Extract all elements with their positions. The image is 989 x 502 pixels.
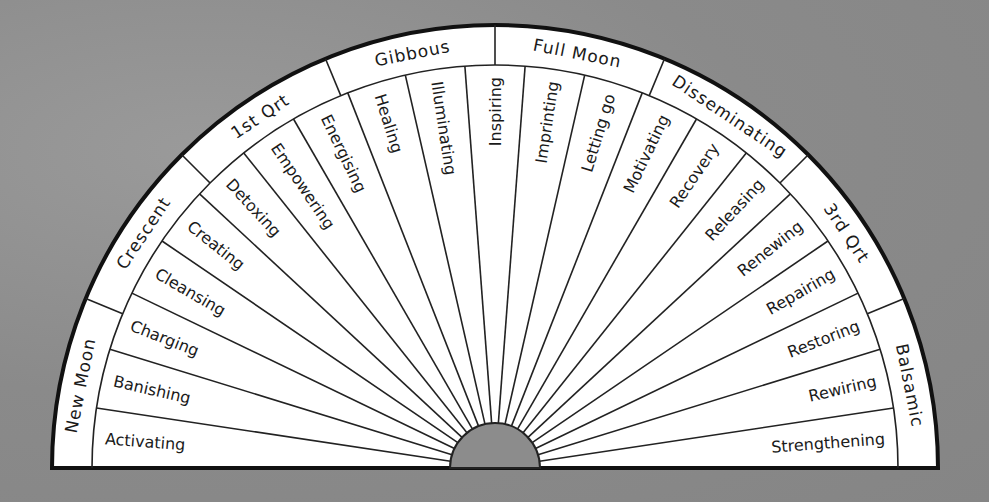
segment-label: Inspiring (486, 77, 505, 146)
moon-phase-chart: New MoonCrescent1st QrtGibbousFull MoonD… (0, 0, 989, 502)
